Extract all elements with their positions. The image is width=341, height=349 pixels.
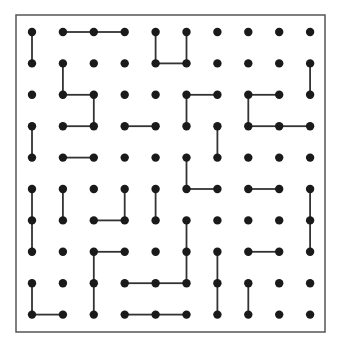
grid-dot [182, 216, 190, 224]
grid-dot [182, 122, 190, 130]
grid-dot [275, 310, 283, 318]
grid-dot [306, 122, 314, 130]
grid-dot [306, 216, 314, 224]
grid-dot [213, 91, 221, 99]
grid-dot [151, 248, 159, 256]
grid-dot [59, 122, 67, 130]
grid-dot [306, 279, 314, 287]
grid-dot [90, 310, 98, 318]
grid-dot [182, 28, 190, 36]
grid-dot [182, 279, 190, 287]
grid-dot [275, 122, 283, 130]
grid-dot [151, 122, 159, 130]
grid-dot [306, 59, 314, 67]
grid-dot [182, 59, 190, 67]
grid-dot [182, 248, 190, 256]
grid-dot [275, 248, 283, 256]
grid-dot [182, 185, 190, 193]
grid-dot [28, 153, 36, 161]
grid-dot [28, 310, 36, 318]
grid-dot [306, 248, 314, 256]
grid-dot [90, 28, 98, 36]
grid-dot [244, 216, 252, 224]
grid-dot [306, 310, 314, 318]
grid-dot [59, 59, 67, 67]
grid-dot [275, 91, 283, 99]
grid-dot [90, 153, 98, 161]
grid-dot [59, 185, 67, 193]
grid-dot [59, 91, 67, 99]
grid-dot [90, 279, 98, 287]
grid-dot [28, 248, 36, 256]
grid-dot [182, 91, 190, 99]
grid-dot [151, 310, 159, 318]
grid-dot [244, 248, 252, 256]
grid-dot [213, 216, 221, 224]
grid-dot [151, 216, 159, 224]
grid-dot [213, 310, 221, 318]
grid-dot [121, 28, 129, 36]
grid-dot [213, 153, 221, 161]
grid-dot [244, 153, 252, 161]
grid-dot [213, 122, 221, 130]
grid-dot [90, 122, 98, 130]
grid-dot [121, 59, 129, 67]
grid-dot [59, 216, 67, 224]
grid-dot [28, 122, 36, 130]
grid-dot [275, 153, 283, 161]
grid-dot [59, 248, 67, 256]
grid-dot [151, 59, 159, 67]
grid-dot [213, 248, 221, 256]
grid-dot [306, 91, 314, 99]
grid-dot [182, 310, 190, 318]
grid-dot [121, 153, 129, 161]
grid-dot [121, 91, 129, 99]
grid-dot [275, 216, 283, 224]
grid-dot [90, 91, 98, 99]
grid-dot [244, 122, 252, 130]
grid-dot [90, 185, 98, 193]
grid-dot [275, 185, 283, 193]
grid-dot [90, 59, 98, 67]
grid-dot [244, 279, 252, 287]
grid-dot [121, 216, 129, 224]
grid-dot [275, 28, 283, 36]
grid-dot [121, 279, 129, 287]
grid-dot [28, 279, 36, 287]
grid-dot [59, 28, 67, 36]
dot-grid-diagram [0, 0, 341, 349]
grid-dot [121, 310, 129, 318]
grid-dot [306, 28, 314, 36]
grid-dot [306, 153, 314, 161]
grid-dot [59, 310, 67, 318]
grid-dot [121, 185, 129, 193]
grid-dot [244, 59, 252, 67]
grid-dot [28, 91, 36, 99]
grid-dot [28, 185, 36, 193]
grid-dot [28, 216, 36, 224]
dot-layer [28, 28, 315, 319]
grid-dot [213, 28, 221, 36]
grid-dot [90, 216, 98, 224]
grid-dot [151, 153, 159, 161]
grid-dot [244, 310, 252, 318]
grid-dot [182, 153, 190, 161]
grid-dot [275, 59, 283, 67]
grid-dot [244, 91, 252, 99]
grid-dot [244, 28, 252, 36]
grid-dot [59, 153, 67, 161]
grid-dot [275, 279, 283, 287]
grid-dot [90, 248, 98, 256]
grid-dot [28, 28, 36, 36]
grid-dot [151, 91, 159, 99]
grid-dot [151, 279, 159, 287]
grid-dot [121, 122, 129, 130]
segment-layer [32, 32, 310, 315]
grid-dot [121, 248, 129, 256]
grid-dot [306, 185, 314, 193]
grid-dot [151, 28, 159, 36]
grid-dot [213, 59, 221, 67]
grid-dot [213, 185, 221, 193]
grid-dot [244, 185, 252, 193]
grid-dot [59, 279, 67, 287]
